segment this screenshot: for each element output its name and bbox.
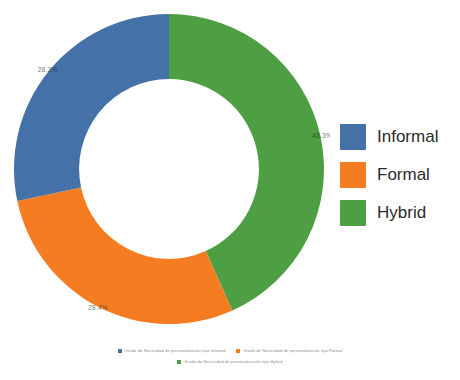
caption-text: Grado de Necesidad de personalización ti… (184, 357, 282, 366)
legend-swatch-hybrid (340, 200, 366, 226)
caption-item: Grado de Necesidad de personalización ti… (236, 346, 342, 355)
caption-line-2: Grado de Necesidad de personalización ti… (0, 357, 460, 366)
donut-chart: 43.3%28.4%28.3% (8, 8, 330, 330)
legend-label-hybrid: Hybrid (377, 203, 426, 223)
donut-value-label-formal: 28.4% (88, 304, 107, 311)
donut-svg: 43.3%28.4%28.3% (8, 8, 330, 330)
caption-item: Grado de Necesidad de personalización ti… (177, 357, 282, 366)
legend-item-informal[interactable]: Informal (340, 118, 458, 156)
legend-item-formal[interactable]: Formal (340, 156, 458, 194)
legend-label-formal: Formal (377, 165, 430, 185)
caption-marker (118, 349, 122, 353)
donut-value-label-hybrid: 43.3% (312, 132, 330, 139)
legend-item-hybrid[interactable]: Hybrid (340, 194, 458, 232)
legend-swatch-informal (340, 124, 366, 150)
caption-marker (177, 360, 181, 364)
chart-caption: Grado de Necesidad de personalización ti… (0, 346, 460, 368)
donut-value-label-informal: 28.3% (38, 66, 57, 73)
legend-label-informal: Informal (377, 127, 438, 147)
chart-legend: Informal Formal Hybrid (340, 118, 458, 232)
donut-chart-area: 43.3%28.4%28.3% Informal Formal Hybrid (0, 0, 460, 340)
donut-slice-group (14, 14, 324, 324)
donut-slice-formal[interactable] (17, 188, 232, 324)
donut-slice-informal[interactable] (14, 14, 169, 201)
caption-item: Grado de Necesidad de personalización ti… (118, 346, 227, 355)
legend-swatch-formal (340, 162, 366, 188)
caption-line-1: Grado de Necesidad de personalización ti… (0, 346, 460, 355)
caption-text: Grado de Necesidad de personalización ti… (243, 346, 342, 355)
caption-marker (236, 349, 240, 353)
caption-text: Grado de Necesidad de personalización ti… (125, 346, 227, 355)
